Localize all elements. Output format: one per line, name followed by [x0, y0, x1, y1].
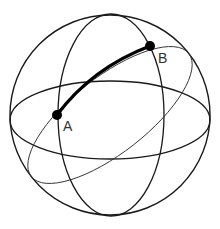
point-a-label: A	[63, 118, 73, 134]
point-a-dot	[52, 110, 62, 120]
background	[0, 0, 220, 229]
sphere-diagram: A B	[0, 0, 220, 229]
point-b-label: B	[158, 50, 167, 66]
point-b-dot	[145, 41, 155, 51]
